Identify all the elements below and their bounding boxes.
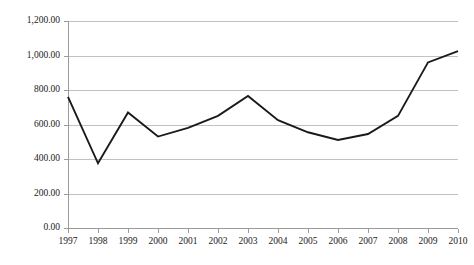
x-tick-label: 2003 xyxy=(239,236,258,246)
y-tick-label: 1,000.00 xyxy=(27,50,61,60)
y-tick-label: 600.00 xyxy=(34,119,60,129)
x-tick-label: 2000 xyxy=(149,236,168,246)
x-tick-label: 2007 xyxy=(359,236,378,246)
x-tick-label: 2010 xyxy=(449,236,468,246)
x-tick-label: 2006 xyxy=(329,236,348,246)
x-tick-label: 2001 xyxy=(179,236,198,246)
x-tick-label: 2005 xyxy=(299,236,318,246)
chart-canvas: 0.00200.00400.00600.00800.001,000.001,20… xyxy=(0,0,474,265)
x-tick-label: 2004 xyxy=(269,236,288,246)
x-tick-label: 1999 xyxy=(119,236,138,246)
y-tick-label: 200.00 xyxy=(34,188,60,198)
x-tick-label: 1998 xyxy=(89,236,108,246)
chart-background xyxy=(0,0,474,265)
y-tick-label: 800.00 xyxy=(34,84,60,94)
y-tick-label: 400.00 xyxy=(34,153,60,163)
x-tick-label: 2002 xyxy=(209,236,228,246)
x-tick-label: 2008 xyxy=(389,236,408,246)
x-tick-label: 1997 xyxy=(59,236,78,246)
x-tick-label: 2009 xyxy=(419,236,438,246)
y-tick-label: 1,200.00 xyxy=(27,15,61,25)
line-chart: 0.00200.00400.00600.00800.001,000.001,20… xyxy=(0,0,474,265)
y-tick-label: 0.00 xyxy=(43,222,60,232)
